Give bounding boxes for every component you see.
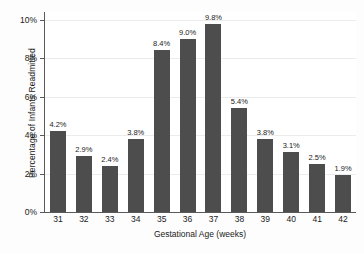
y-tick-label: 6% xyxy=(25,92,37,102)
bar-value-label: 9.8% xyxy=(205,13,222,22)
bar-value-label: 4.2% xyxy=(49,120,66,129)
bar xyxy=(50,131,66,212)
bar-slot: 2.5% xyxy=(304,12,330,212)
bar-value-label: 2.5% xyxy=(309,153,326,162)
y-axis-title: Percentage of Infants Readmitted xyxy=(27,13,37,213)
y-tick-label: 8% xyxy=(25,53,37,63)
x-tick-label: 35 xyxy=(149,214,175,224)
y-tick-mark xyxy=(40,174,44,175)
bar-slot: 1.9% xyxy=(330,12,356,212)
bar xyxy=(309,164,325,212)
y-axis-line xyxy=(44,12,45,212)
x-tick-label: 41 xyxy=(304,214,330,224)
x-tick-label: 33 xyxy=(97,214,123,224)
x-tick-label: 36 xyxy=(175,214,201,224)
bar-value-label: 2.4% xyxy=(101,155,118,164)
bar-slot: 5.4% xyxy=(226,12,252,212)
x-tick-label: 39 xyxy=(252,214,278,224)
plot-area: 4.2% 2.9% 2.4% 3.8% 8.4% 9.0% xyxy=(44,12,356,212)
bar-value-label: 3.8% xyxy=(257,128,274,137)
bar-slot: 3.8% xyxy=(252,12,278,212)
bar-slot: 2.9% xyxy=(71,12,97,212)
x-axis-line xyxy=(44,212,356,213)
bar-slot: 8.4% xyxy=(149,12,175,212)
caption-fragment xyxy=(3,244,303,252)
bar xyxy=(102,166,118,212)
bar-slot: 3.1% xyxy=(278,12,304,212)
y-tick-label: 4% xyxy=(25,130,37,140)
bar xyxy=(335,175,351,212)
x-tick-label: 42 xyxy=(330,214,356,224)
x-tick-label: 31 xyxy=(45,214,71,224)
x-tick-label: 32 xyxy=(71,214,97,224)
x-tick-label: 40 xyxy=(278,214,304,224)
bar xyxy=(231,108,247,212)
bar-value-label: 2.9% xyxy=(75,145,92,154)
y-tick-label: 2% xyxy=(25,169,37,179)
bar-slot: 9.0% xyxy=(175,12,201,212)
bar-value-label: 3.1% xyxy=(283,141,300,150)
y-tick-mark xyxy=(40,212,44,213)
y-tick-mark xyxy=(40,58,44,59)
bar xyxy=(283,152,299,212)
bar-value-label: 1.9% xyxy=(335,164,352,173)
bar-value-label: 3.8% xyxy=(127,128,144,137)
bar-value-label: 5.4% xyxy=(231,97,248,106)
x-tick-label: 34 xyxy=(123,214,149,224)
bar-slot: 3.8% xyxy=(123,12,149,212)
chart-figure: Percentage of Infants Readmitted 4.2% 2.… xyxy=(0,0,364,253)
bar-value-label: 8.4% xyxy=(153,39,170,48)
x-axis-title: Gestational Age (weeks) xyxy=(44,229,356,239)
y-tick-mark xyxy=(40,97,44,98)
bar-series: 4.2% 2.9% 2.4% 3.8% 8.4% 9.0% xyxy=(45,12,356,212)
y-tick-mark xyxy=(40,135,44,136)
y-tick-label: 0% xyxy=(25,207,37,217)
x-tick-label: 37 xyxy=(201,214,227,224)
y-tick-mark xyxy=(40,20,44,21)
bar xyxy=(76,156,92,212)
bar-value-label: 9.0% xyxy=(179,28,196,37)
bar xyxy=(257,139,273,212)
bar xyxy=(180,39,196,212)
bar-slot: 9.8% xyxy=(201,12,227,212)
bar xyxy=(205,24,221,212)
y-tick-label: 10% xyxy=(20,15,37,25)
x-axis-tick-labels: 31 32 33 34 35 36 37 38 39 40 41 42 xyxy=(45,214,356,224)
bar-slot: 2.4% xyxy=(97,12,123,212)
bar xyxy=(154,50,170,212)
x-tick-label: 38 xyxy=(226,214,252,224)
bar xyxy=(128,139,144,212)
bar-slot: 4.2% xyxy=(45,12,71,212)
